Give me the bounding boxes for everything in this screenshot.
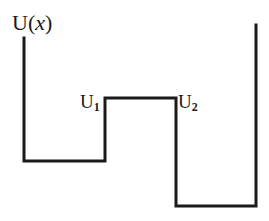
potential-curve [24, 25, 256, 206]
axis-label-prefix: U( [12, 10, 35, 35]
level-u2-subscript: 2 [192, 100, 198, 114]
level-u2-name: U [178, 91, 192, 112]
y-axis-label: U(x) [12, 12, 52, 34]
axis-label-suffix: ) [45, 10, 52, 35]
level-u1-name: U [80, 91, 94, 112]
level-u1-subscript: 1 [94, 100, 100, 114]
level-label-u2: U2 [178, 92, 198, 111]
level-label-u1: U1 [80, 92, 100, 111]
axis-label-variable: x [35, 10, 45, 35]
